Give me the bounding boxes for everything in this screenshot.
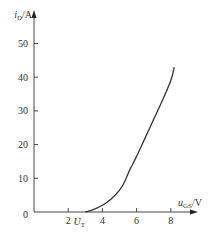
y-tick-label: 10 [18, 173, 28, 184]
x-tick-label: 8 [168, 215, 173, 226]
x-tick-label: 6 [134, 215, 139, 226]
x-tick-label: 4 [100, 215, 105, 226]
y-tick-label: 30 [18, 105, 28, 116]
y-tick-label: 50 [18, 38, 28, 49]
y-tick-label: 40 [18, 72, 28, 83]
labels: 246810203040500iD/AuGS/VUT [14, 9, 203, 229]
series-line-transfer-characteristic [85, 67, 174, 212]
x-axis-arrow-icon [190, 210, 198, 215]
y-axis-label: iD/A [14, 9, 33, 22]
threshold-voltage-label: UT [74, 216, 86, 229]
series [85, 67, 174, 212]
y-tick-label: 20 [18, 139, 28, 150]
x-tick-label: 2 [66, 215, 71, 226]
chart: 246810203040500iD/AuGS/VUT [0, 0, 224, 242]
y-axis-arrow-icon [32, 10, 37, 18]
x-axis-label: uGS/V [178, 197, 203, 210]
origin-label: 0 [23, 209, 28, 220]
axes [32, 10, 199, 215]
